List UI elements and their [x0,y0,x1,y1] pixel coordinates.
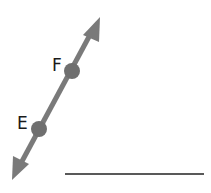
point-e-label: E [17,113,28,133]
diagram-canvas: F E [0,0,211,193]
point-f [64,63,80,79]
line-ef [20,33,91,165]
point-e [31,121,47,137]
point-f-label: F [52,55,62,75]
